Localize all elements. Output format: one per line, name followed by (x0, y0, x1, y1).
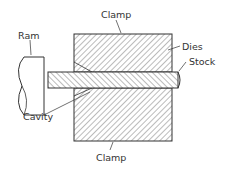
die-upper (74, 34, 172, 72)
label-ram: Ram (18, 30, 39, 41)
label-cavity: Cavity (23, 111, 53, 122)
label-stock: Stock (189, 56, 216, 67)
label-clamp-bottom: Clamp (96, 152, 126, 163)
stock-bar (48, 72, 180, 88)
label-clamp-top: Clamp (101, 9, 131, 20)
ram (18, 57, 44, 115)
extrusion-diagram: Ram Clamp Dies Stock Cavity Clamp (0, 0, 225, 172)
die-lower (74, 88, 172, 141)
label-dies: Dies (182, 41, 203, 52)
